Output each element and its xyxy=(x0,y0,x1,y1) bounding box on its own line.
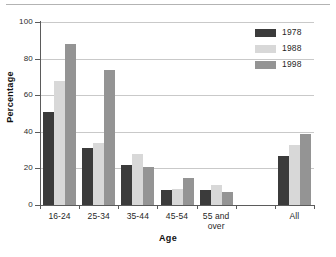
category-label-line: over xyxy=(197,221,236,231)
y-tick-label-0: 0 xyxy=(6,200,33,209)
x-tick-mark-2 xyxy=(118,205,119,209)
category-label-line: 16-24 xyxy=(40,211,79,221)
category-label-35-44: 35-44 xyxy=(118,211,157,221)
x-tick-mark-1 xyxy=(79,205,80,209)
bar-1988-All xyxy=(289,145,300,205)
category-label-All: All xyxy=(275,211,314,221)
x-tick-mark-7 xyxy=(314,205,315,209)
x-tick-mark-0 xyxy=(40,205,41,209)
legend-swatch-1998 xyxy=(255,61,276,69)
y-axis-title: Percentage xyxy=(5,57,15,137)
x-tick-mark-4 xyxy=(197,205,198,209)
x-axis-title: Age xyxy=(0,233,336,243)
category-label-line: 45-54 xyxy=(157,211,196,221)
category-label-45-54: 45-54 xyxy=(157,211,196,221)
x-tick-mark-5 xyxy=(236,205,237,209)
bar-chart-figure: 020406080100 16-2425-3435-4445-5455 ando… xyxy=(0,0,336,257)
bar-1978-All xyxy=(278,156,289,205)
x-tick-mark-3 xyxy=(157,205,158,209)
legend-swatch-1988 xyxy=(255,45,276,53)
bar-1998-All xyxy=(300,134,311,205)
category-label-25-34: 25-34 xyxy=(79,211,118,221)
category-label-55 and over: 55 andover xyxy=(197,211,236,231)
y-axis-line xyxy=(40,21,41,206)
legend-label-1978: 1978 xyxy=(282,27,302,37)
legend-label-1988: 1988 xyxy=(282,43,302,53)
category-label-line: 25-34 xyxy=(79,211,118,221)
category-label-line: 35-44 xyxy=(118,211,157,221)
y-tick-label-100: 100 xyxy=(6,17,33,26)
legend-swatch-1978 xyxy=(255,29,276,37)
x-axis-line xyxy=(40,205,315,206)
category-label-line: All xyxy=(275,211,314,221)
legend-label-1998: 1998 xyxy=(282,59,302,69)
category-label-16-24: 16-24 xyxy=(40,211,79,221)
y-tick-label-20: 20 xyxy=(6,163,33,172)
category-label-line: 55 and xyxy=(197,211,236,221)
page-top-rule xyxy=(6,4,330,5)
x-tick-mark-6 xyxy=(275,205,276,209)
